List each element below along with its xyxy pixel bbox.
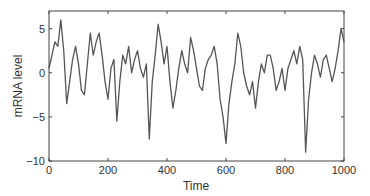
mrna-level-line <box>49 20 344 152</box>
x-tick-label: 600 <box>217 164 235 176</box>
y-axis-label: mRNA level <box>11 55 25 118</box>
y-tick-label: −10 <box>26 155 45 167</box>
plot-area <box>49 11 344 161</box>
y-tick-label: 5 <box>39 23 45 35</box>
x-tick-label: 0 <box>46 164 52 176</box>
x-tick-label: 400 <box>158 164 176 176</box>
plot-frame <box>49 11 344 161</box>
y-axis: −10−505 <box>26 23 344 167</box>
x-tick-label: 1000 <box>332 164 356 176</box>
x-axis-label: Time <box>183 179 210 193</box>
y-tick-label: 0 <box>39 67 45 79</box>
x-tick-label: 800 <box>276 164 294 176</box>
line-chart: 02004006008001000 −10−505 Time mRNA leve… <box>0 0 370 196</box>
x-tick-label: 200 <box>99 164 117 176</box>
y-tick-label: −5 <box>32 111 45 123</box>
